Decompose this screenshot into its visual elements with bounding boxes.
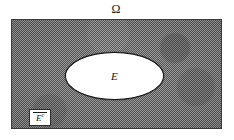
complement-label: Ec <box>36 114 44 123</box>
complement-superscript: c <box>41 112 44 118</box>
event-label: E <box>66 53 163 99</box>
event-symbol: E <box>111 70 118 82</box>
universe-rectangle: E Ec <box>11 19 222 129</box>
complement-label-box: Ec <box>29 109 51 126</box>
event-ellipse: E <box>65 52 164 100</box>
set-diagram-figure: Ω E Ec <box>0 0 234 140</box>
omega-symbol: Ω <box>111 2 120 16</box>
omega-label: Ω <box>0 1 234 17</box>
